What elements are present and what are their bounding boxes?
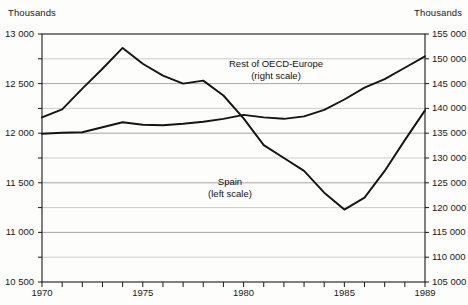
y-axis-left-tick-label: 11 500 [0,178,34,188]
y-axis-right-tick-label: 130 000 [432,153,468,163]
y-axis-right-tick-label: 120 000 [432,203,468,213]
series-annotation-oecd-name: Rest of OECD-Europe [196,58,356,70]
y-axis-left-tick-label: 12 500 [0,79,34,89]
y-axis-right-tick-label: 135 000 [432,128,468,138]
y-axis-left-tick-label: 12 000 [0,128,34,138]
chart-container: Thousands Thousands Rest of OECD-Europe … [0,0,468,305]
series-annotation-oecd-scale: (right scale) [196,70,356,82]
y-axis-left-tick-label: 11 000 [0,227,34,237]
y-axis-left-tick-label: 10 500 [0,277,34,287]
y-axis-right-tick-label: 125 000 [432,178,468,188]
series-annotation-spain-scale: (left scale) [170,188,290,200]
series-annotation-oecd: Rest of OECD-Europe (right scale) [196,58,356,81]
chart-plot-area [0,0,468,305]
x-axis-tick-label: 1975 [113,288,173,298]
series-annotation-spain-name: Spain [170,176,290,188]
y-axis-left-tick-label: 13 000 [0,29,34,39]
x-axis-tick-label: 1970 [12,288,72,298]
y-axis-right-tick-label: 150 000 [432,54,468,64]
x-axis-tick-label: 1985 [314,288,374,298]
y-axis-right-tick-label: 145 000 [432,79,468,89]
series-annotation-spain: Spain (left scale) [170,176,290,199]
y-axis-right-tick-label: 155 000 [432,29,468,39]
x-axis-tick-label: 1980 [214,288,274,298]
gridlines [42,59,425,257]
x-axis-tick-label: 1989 [395,288,455,298]
y-axis-right-tick-label: 105 000 [432,277,468,287]
y-axis-right-tick-label: 140 000 [432,103,468,113]
y-axis-right-tick-label: 115 000 [432,227,468,237]
y-axis-right-tick-label: 110 000 [432,252,468,262]
